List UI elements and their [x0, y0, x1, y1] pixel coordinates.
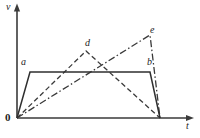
point-label-a: a — [21, 57, 26, 67]
curve-trapezoid-ab — [17, 72, 160, 118]
velocity-time-figure: v t 0 a b d e — [0, 0, 200, 138]
t-axis-label: t — [186, 121, 189, 131]
point-label-d: d — [85, 38, 90, 48]
v-axis-arrow-icon — [14, 4, 20, 12]
point-label-b: b — [147, 57, 152, 67]
figure-canvas — [0, 0, 200, 138]
v-axis-label: v — [6, 2, 10, 12]
point-label-e: e — [150, 25, 154, 35]
origin-label: 0 — [5, 112, 11, 123]
curve-triangle-d — [17, 51, 160, 118]
